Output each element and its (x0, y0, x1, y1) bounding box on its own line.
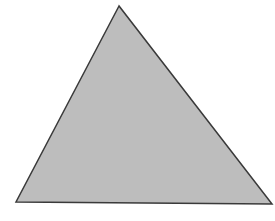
diagram-canvas (0, 0, 275, 221)
triangle-diagram (0, 0, 275, 221)
triangle-shape (16, 6, 272, 204)
